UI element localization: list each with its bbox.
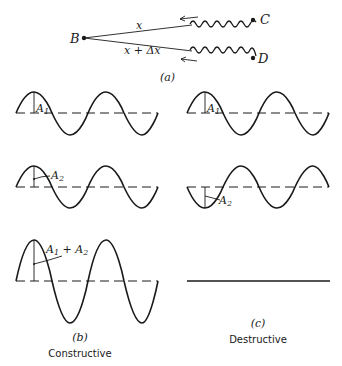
arrow-lower-icon	[181, 57, 197, 62]
point-d-dot	[251, 56, 255, 60]
amp-label-c2: A2	[218, 194, 232, 208]
interference-diagram: B x x + Δx C D (a) A1 A2	[0, 0, 342, 366]
point-c-dot	[251, 18, 255, 22]
wave-c-squiggle	[190, 20, 256, 27]
point-b-dot	[82, 36, 86, 40]
panel-c: A1 A2 (c) Destructive	[187, 92, 330, 345]
panel-b-caption: Constructive	[48, 348, 111, 359]
amp-label-b2: A2	[50, 169, 64, 183]
amp-label-b-sum: A1 + A2	[45, 243, 88, 257]
panel-b-label: (b)	[72, 331, 88, 344]
path-upper-label: x	[136, 19, 143, 32]
panel-c-caption: Destructive	[229, 334, 287, 345]
point-c-label: C	[260, 12, 270, 27]
arrow-upper-icon	[180, 16, 198, 21]
panel-c-label: (c)	[251, 317, 266, 330]
panel-a: B x x + Δx C D (a)	[69, 12, 270, 84]
wave-d-squiggle	[190, 47, 256, 56]
point-b-label: B	[69, 31, 80, 46]
point-d-label: D	[257, 51, 269, 66]
path-lower-label: x + Δx	[124, 44, 161, 57]
panel-a-label: (a)	[160, 71, 175, 84]
panel-b: A1 A2 A1 + A2 (b) Constructive	[16, 92, 158, 359]
